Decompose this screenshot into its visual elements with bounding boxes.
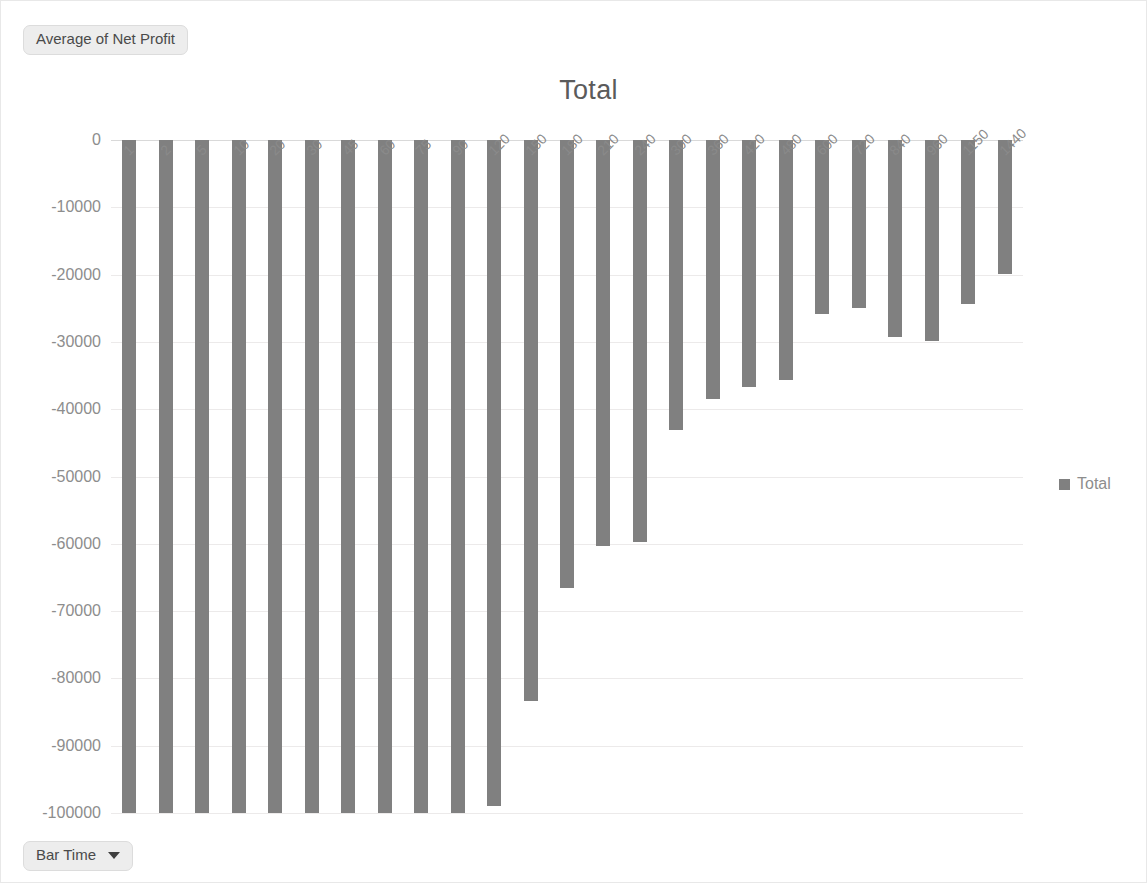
legend-swatch-total: [1059, 479, 1070, 490]
y-tick-label: -10000: [5, 198, 101, 216]
axis-field-label: Bar Time: [36, 847, 96, 864]
chevron-down-icon[interactable]: [108, 852, 120, 859]
y-tick-label: -30000: [5, 333, 101, 351]
y-tick-label: -80000: [5, 669, 101, 687]
bar[interactable]: [378, 140, 392, 813]
y-tick-label: -50000: [5, 468, 101, 486]
y-tick-label: -100000: [5, 804, 101, 822]
bar[interactable]: [888, 140, 902, 337]
bar[interactable]: [232, 140, 246, 813]
legend: Total: [1059, 475, 1111, 493]
bar[interactable]: [669, 140, 683, 430]
bar[interactable]: [706, 140, 720, 399]
bar[interactable]: [596, 140, 610, 546]
bar[interactable]: [742, 140, 756, 387]
bar[interactable]: [779, 140, 793, 380]
gridline: [111, 678, 1023, 679]
bar[interactable]: [815, 140, 829, 314]
bar[interactable]: [195, 140, 209, 813]
bar[interactable]: [341, 140, 355, 813]
y-tick-label: -40000: [5, 400, 101, 418]
plot-area: [111, 140, 1023, 813]
chart-title-text: Total: [559, 75, 618, 105]
chart-title: Total: [1, 75, 1147, 106]
bar[interactable]: [524, 140, 538, 701]
pivot-chart-frame: Average of Net Profit Total 0-10000-2000…: [0, 0, 1147, 883]
bar[interactable]: [852, 140, 866, 308]
bar[interactable]: [998, 140, 1012, 274]
bar[interactable]: [633, 140, 647, 542]
y-tick-label: -70000: [5, 602, 101, 620]
value-field-button[interactable]: Average of Net Profit: [23, 25, 188, 55]
y-axis: 0-10000-20000-30000-40000-50000-60000-70…: [1, 140, 101, 813]
bar[interactable]: [961, 140, 975, 304]
y-tick-label: -60000: [5, 535, 101, 553]
y-tick-label: -90000: [5, 737, 101, 755]
axis-field-button[interactable]: Bar Time: [23, 841, 133, 871]
gridline: [111, 746, 1023, 747]
gridline: [111, 813, 1023, 814]
bar[interactable]: [925, 140, 939, 341]
bar[interactable]: [268, 140, 282, 813]
bar[interactable]: [159, 140, 173, 813]
bar[interactable]: [451, 140, 465, 813]
bar[interactable]: [122, 140, 136, 813]
value-field-label: Average of Net Profit: [36, 31, 175, 48]
bar[interactable]: [487, 140, 501, 806]
bar[interactable]: [414, 140, 428, 813]
gridline: [111, 611, 1023, 612]
bar[interactable]: [305, 140, 319, 813]
y-tick-label: -20000: [5, 266, 101, 284]
bar[interactable]: [560, 140, 574, 588]
y-tick-label: 0: [5, 131, 101, 149]
legend-label-total: Total: [1077, 475, 1111, 493]
